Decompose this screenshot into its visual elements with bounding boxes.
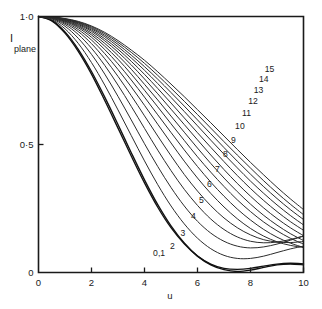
curve-13 [39,17,304,220]
curve-label-6: 6 [207,179,212,189]
curve-12 [39,17,304,225]
curve-label-7: 7 [215,164,220,174]
curve-label-14: 14 [259,74,269,84]
curve-label-2: 2 [170,241,175,251]
x-tick-label-6: 6 [195,277,200,288]
x-tick-label-10: 10 [298,277,309,288]
curve-label-15: 15 [265,64,275,74]
y-tick-label-0-5: 0·5 [20,139,34,150]
curve-label-11: 11 [242,108,251,118]
curve-0-1 [39,17,304,272]
curve-label-5: 5 [199,195,204,205]
x-tick-label-4: 4 [142,277,147,288]
x-tick-label-2: 2 [89,277,94,288]
y-tick-label-1: 1·0 [20,11,34,22]
axes-group [39,17,304,273]
curve-label-4: 4 [191,211,196,221]
curve-label-13: 13 [254,85,264,95]
plot-canvas: 024681000·51·0 0,123456789101112131415 u… [0,0,322,309]
x-tick-label-8: 8 [248,277,253,288]
axis-frame [39,17,304,273]
curve-label-12: 12 [248,96,258,106]
x-axis-title: u [167,290,172,301]
tick-labels-group: 024681000·51·0 [20,11,309,288]
curve-label-10: 10 [235,121,245,131]
y-tick-label-0: 0 [28,267,33,278]
curves-group [39,17,304,272]
x-tick-label-0: 0 [36,277,41,288]
curve-label-3: 3 [181,228,186,238]
curve-label-0-1: 0,1 [153,248,165,258]
diffraction-intensity-chart: 024681000·51·0 0,123456789101112131415 u… [0,0,322,309]
y-axis-title-sub: plane [14,44,36,54]
y-axis-title-main: I [10,32,13,44]
curve-label-8: 8 [223,149,228,159]
curve-label-9: 9 [231,135,236,145]
